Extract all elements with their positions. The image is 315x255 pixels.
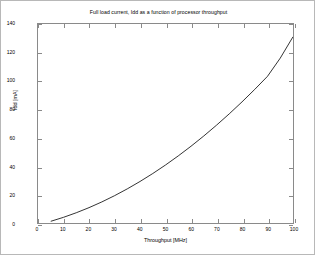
x-tick-label: 60 bbox=[179, 226, 203, 232]
x-tick-label: 20 bbox=[76, 226, 100, 232]
x-tick-mark bbox=[218, 219, 219, 223]
x-tick-label: 50 bbox=[154, 226, 178, 232]
y-tick-label: 60 bbox=[0, 135, 15, 141]
x-tick-mark-top bbox=[167, 24, 168, 28]
chart-title: Full load current, Idd as a function of … bbox=[1, 9, 315, 15]
y-tick-mark bbox=[38, 53, 42, 54]
x-tick-mark-top bbox=[141, 24, 142, 28]
y-tick-mark bbox=[38, 81, 42, 82]
y-tick-mark bbox=[38, 168, 42, 169]
y-tick-label: 120 bbox=[0, 49, 15, 55]
x-tick-mark bbox=[89, 219, 90, 223]
x-tick-mark bbox=[38, 219, 39, 223]
figure-window: Full load current, Idd as a function of … bbox=[0, 0, 315, 255]
y-tick-mark-right bbox=[289, 110, 293, 111]
y-tick-mark-right bbox=[289, 139, 293, 140]
x-tick-label: 0 bbox=[25, 226, 49, 232]
x-tick-mark bbox=[64, 219, 65, 223]
x-tick-label: 40 bbox=[128, 226, 152, 232]
y-tick-mark-right bbox=[289, 53, 293, 54]
data-curve bbox=[38, 24, 293, 223]
x-tick-mark-top bbox=[192, 24, 193, 28]
x-tick-label: 10 bbox=[51, 226, 75, 232]
x-tick-mark-top bbox=[218, 24, 219, 28]
y-tick-mark bbox=[38, 110, 42, 111]
x-axis-label: Throughput [MHz] bbox=[37, 237, 294, 243]
x-tick-mark bbox=[192, 219, 193, 223]
y-tick-mark bbox=[38, 139, 42, 140]
x-tick-mark-top bbox=[38, 24, 39, 28]
x-tick-label: 90 bbox=[256, 226, 280, 232]
y-tick-label: 140 bbox=[0, 20, 15, 26]
x-tick-label: 80 bbox=[231, 226, 255, 232]
x-tick-mark bbox=[295, 219, 296, 223]
x-tick-mark bbox=[141, 219, 142, 223]
x-tick-mark bbox=[269, 219, 270, 223]
x-tick-mark-top bbox=[89, 24, 90, 28]
y-tick-mark-right bbox=[289, 196, 293, 197]
x-tick-mark-top bbox=[115, 24, 116, 28]
plot-axes bbox=[37, 23, 294, 224]
y-tick-label: 20 bbox=[0, 192, 15, 198]
y-tick-mark bbox=[38, 196, 42, 197]
y-tick-label: 100 bbox=[0, 77, 15, 83]
y-tick-mark-right bbox=[289, 81, 293, 82]
y-tick-label: 80 bbox=[0, 106, 15, 112]
x-tick-label: 100 bbox=[282, 226, 306, 232]
y-tick-label: 40 bbox=[0, 164, 15, 170]
x-tick-mark-top bbox=[269, 24, 270, 28]
x-tick-label: 70 bbox=[205, 226, 229, 232]
x-tick-mark-top bbox=[244, 24, 245, 28]
x-tick-mark bbox=[167, 219, 168, 223]
y-tick-label: 0 bbox=[0, 221, 15, 227]
x-tick-label: 30 bbox=[102, 226, 126, 232]
x-tick-mark bbox=[244, 219, 245, 223]
y-tick-mark-right bbox=[289, 24, 293, 25]
y-tick-mark-right bbox=[289, 168, 293, 169]
x-tick-mark bbox=[115, 219, 116, 223]
x-tick-mark-top bbox=[64, 24, 65, 28]
x-tick-mark-top bbox=[295, 24, 296, 28]
